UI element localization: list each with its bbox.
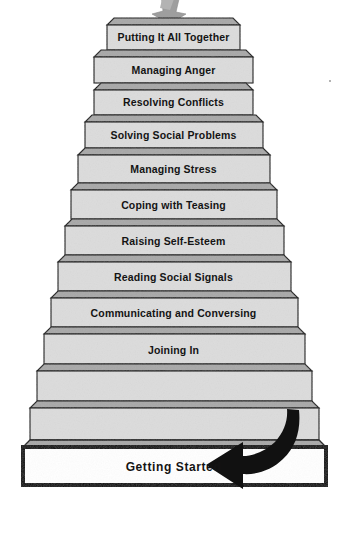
- step-11-label: Getting Started: [126, 460, 222, 474]
- step-8-label: Reading Social Signals: [114, 271, 233, 283]
- step-3-label: Resolving Conflicts: [123, 96, 224, 108]
- step-10-label: Joining In: [148, 344, 199, 356]
- step-2-label: Managing Anger: [132, 64, 216, 76]
- step-6-label: Coping with Teasing: [121, 199, 226, 211]
- scan-speck: [329, 80, 331, 82]
- step-1-label: Putting It All Together: [118, 31, 230, 43]
- step-4-label: Solving Social Problems: [111, 129, 237, 141]
- staircase-graphic: Putting It All Together Managing Anger R…: [0, 0, 347, 533]
- step-5-label: Managing Stress: [130, 163, 216, 175]
- step-9-label: Communicating and Conversing: [91, 307, 257, 319]
- staircase-diagram: Putting It All Together Managing Anger R…: [0, 0, 347, 533]
- step-7-label: Raising Self-Esteem: [122, 235, 226, 247]
